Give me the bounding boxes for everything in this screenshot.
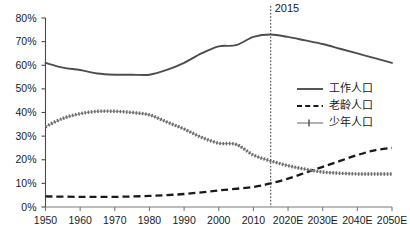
legend-item-working-population[interactable]: 工作人口 (296, 80, 408, 97)
y-axis-tick-label: 10% (0, 178, 37, 189)
y-axis-tick-label: 80% (0, 13, 37, 24)
y-axis-tick-label: 40% (0, 107, 37, 118)
legend-swatch-solid-icon (296, 83, 324, 95)
legend-swatch-dashed-icon (296, 100, 324, 112)
y-axis-tick-label: 0% (0, 202, 37, 213)
y-axis-tick-label: 50% (0, 83, 37, 94)
chart-legend: 工作人口 老龄人口 少年人口 (296, 80, 408, 131)
legend-label-youth-population: 少年人口 (329, 117, 373, 128)
x-axis-tick-label: 2050E (367, 215, 410, 226)
marker-2015-label: 2015 (275, 3, 299, 14)
series-line-工作人口 (46, 35, 393, 76)
y-axis-tick-label: 30% (0, 131, 37, 142)
legend-label-aging-population: 老龄人口 (329, 100, 373, 111)
legend-item-youth-population[interactable]: 少年人口 (296, 114, 408, 131)
legend-label-working-population: 工作人口 (329, 83, 373, 94)
y-axis-tick-label: 60% (0, 60, 37, 71)
legend-item-aging-population[interactable]: 老龄人口 (296, 97, 408, 114)
legend-swatch-dotted-marker-icon (296, 117, 324, 129)
y-axis-tick-label: 70% (0, 36, 37, 47)
population-structure-chart: 0%10%20%30%40%50%60%70%80% 1950196019701… (0, 0, 410, 246)
y-axis-tick-label: 20% (0, 154, 37, 165)
